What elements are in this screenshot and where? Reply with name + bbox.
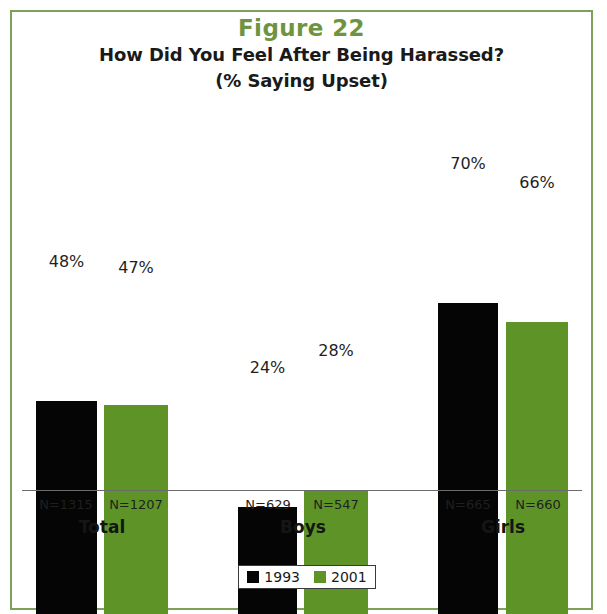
n-label-total-1993: N=1315	[26, 497, 106, 512]
chart-legend: 1993 2001	[238, 565, 376, 589]
bar-value-boys-1993: 24%	[238, 358, 297, 377]
plot-area: 48% 47% 24% 28% 70% 66% N=1315 N=1207 N=…	[0, 0, 607, 614]
group-label-total: Total	[62, 517, 142, 537]
legend-item-2001: 2001	[314, 570, 367, 584]
figure-container: Figure 22 How Did You Feel After Being H…	[0, 0, 607, 614]
bar-girls-2001	[506, 322, 568, 614]
x-axis-baseline	[22, 490, 582, 491]
bar-girls-1993	[438, 303, 498, 614]
bar-value-girls-2001: 66%	[506, 173, 568, 192]
n-label-girls-2001: N=660	[498, 497, 578, 512]
bar-value-total-2001: 47%	[104, 258, 168, 277]
bar-value-total-1993: 48%	[36, 252, 97, 271]
green-square-swatch-icon	[314, 571, 326, 583]
n-label-girls-1993: N=665	[428, 497, 508, 512]
legend-label-1993: 1993	[264, 570, 300, 584]
group-label-boys: Boys	[263, 517, 343, 537]
bar-value-girls-1993: 70%	[438, 154, 498, 173]
legend-label-2001: 2001	[331, 570, 367, 584]
n-label-boys-2001: N=547	[296, 497, 376, 512]
black-square-swatch-icon	[247, 571, 259, 583]
legend-item-1993: 1993	[247, 570, 300, 584]
bar-value-boys-2001: 28%	[304, 341, 368, 360]
n-label-total-2001: N=1207	[96, 497, 176, 512]
group-label-girls: Girls	[463, 517, 543, 537]
